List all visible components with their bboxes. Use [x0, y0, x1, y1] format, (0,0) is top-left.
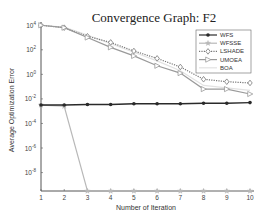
series-wfs [39, 101, 252, 107]
marker-star-icon [154, 188, 159, 193]
y-tick-label: 10-8 [25, 168, 37, 176]
marker-triangle-icon [201, 86, 206, 91]
marker-dot-icon [86, 103, 90, 107]
series-line [41, 103, 250, 105]
y-tick-label: 10-4 [25, 119, 37, 127]
marker-dot-icon [225, 101, 229, 105]
marker-dot-icon [39, 103, 43, 107]
chart-title: Convergence Graph: F2 [92, 10, 217, 25]
y-tick-label: 10-2 [25, 94, 37, 102]
marker-dot-icon [206, 33, 210, 37]
marker-triangle-icon [224, 86, 229, 91]
marker-dot-icon [109, 103, 113, 107]
marker-diamond-icon [225, 79, 229, 85]
marker-dot-icon [155, 102, 159, 106]
x-tick-label: 5 [132, 194, 136, 201]
marker-star-icon [108, 188, 113, 193]
x-tick-label: 9 [225, 194, 229, 201]
marker-dot-icon [248, 101, 252, 105]
x-tick-label: 8 [202, 194, 206, 201]
marker-triangle-icon [248, 91, 253, 96]
y-tick-label: 100 [26, 70, 36, 78]
x-tick-label: 6 [155, 194, 159, 201]
legend-label: UMOEA [220, 57, 242, 63]
marker-diamond-icon [178, 64, 182, 70]
marker-star-icon [131, 188, 136, 193]
marker-star-icon [224, 188, 229, 193]
x-tick-label: 10 [246, 194, 254, 201]
legend-label: BOA [220, 65, 233, 71]
marker-dot-icon [179, 102, 183, 106]
marker-star-icon [85, 188, 90, 193]
legend-item-umoea: UMOEA [199, 57, 242, 63]
y-axis-label: Average Optimization Error [8, 67, 16, 152]
x-tick-label: 4 [109, 194, 113, 201]
x-tick-label: 7 [179, 194, 183, 201]
legend-label: LSHADE [220, 48, 244, 54]
marker-triangle-icon [155, 63, 160, 68]
legend: WFSWFSSELSHADEUMOEABOA [196, 30, 251, 73]
x-tick-label: 1 [39, 194, 43, 201]
y-tick-label: 102 [26, 45, 36, 53]
marker-diamond-icon [248, 80, 252, 86]
legend-label: WFS [220, 32, 233, 38]
y-tick-label: 10-6 [25, 144, 37, 152]
legend-label: WFSSE [220, 40, 241, 46]
marker-dot-icon [62, 103, 66, 107]
marker-dot-icon [202, 101, 206, 105]
marker-star-icon [247, 188, 252, 193]
x-axis-label: Number of Iteration [116, 204, 176, 211]
convergence-chart: Convergence Graph: F2 10410210010-210-41… [0, 0, 268, 222]
marker-star-icon [201, 188, 206, 193]
marker-diamond-icon [201, 76, 205, 82]
series-wfsse [38, 102, 252, 193]
series-line [41, 105, 250, 191]
marker-star-icon [178, 188, 183, 193]
y-tick-label: 104 [26, 21, 36, 29]
marker-dot-icon [132, 102, 136, 106]
x-tick-label: 3 [86, 194, 90, 201]
x-tick-label: 2 [62, 194, 66, 201]
